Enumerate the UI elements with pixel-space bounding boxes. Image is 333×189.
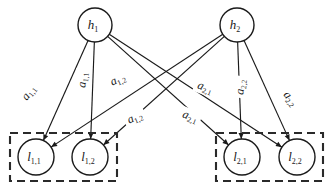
label-a21b: a2,1 [177,105,203,127]
diagram-canvas: h1h2l1,1l1,2l2,1l2,2 a1,1a1,1a1,2a1,2a2,… [0,0,333,189]
node-h1[interactable]: h1 [78,8,112,42]
edge-h2-l11-arrowhead [51,142,57,147]
label-a21: a2,1 [192,76,218,98]
label-a11: a1,1 [16,79,42,106]
graph-svg: h1h2l1,1l1,2l2,1l2,2 a1,1a1,1a1,2a1,2a2,… [0,0,333,189]
node-l11[interactable]: l1,1 [18,139,54,175]
label-a22: a2,2 [232,75,249,98]
label-a22b: a2,2 [278,85,304,112]
group-boxes-layer [10,133,323,181]
node-l22[interactable]: l2,2 [279,139,315,175]
label-a11b: a1,1 [74,68,91,91]
label-a12: a1,2 [105,68,131,91]
nodes-layer: h1h2l1,1l1,2l2,1l2,2 [18,8,315,175]
node-h2[interactable]: h2 [220,8,254,42]
edge-h1-l22-arrowhead [275,142,281,147]
edge-h2-l22 [244,40,290,140]
node-l12[interactable]: l1,2 [72,139,108,175]
node-l21[interactable]: l2,1 [224,139,260,175]
edge-h1-l12 [91,42,95,139]
